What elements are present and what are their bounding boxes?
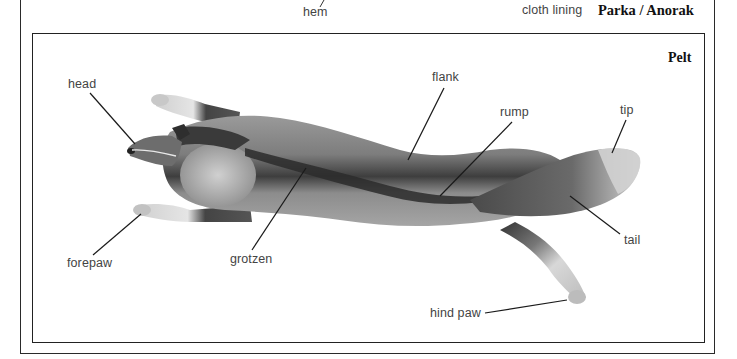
forepaw-leader-line: [93, 214, 141, 255]
tip-leader-line: [612, 120, 626, 153]
head-leader-line: [90, 93, 135, 144]
label-head: head: [68, 78, 96, 91]
fox-pelt-illustration: [0, 0, 737, 359]
label-flank: flank: [432, 71, 459, 84]
label-tail: tail: [624, 234, 640, 247]
label-forepaw: forepaw: [67, 257, 112, 270]
label-grotzen: grotzen: [230, 253, 272, 266]
label-hind-paw: hind paw: [430, 307, 481, 320]
hind-paw-leader-line: [485, 300, 567, 313]
hind-leg-lower: [500, 222, 586, 304]
flank-leader-line: [408, 88, 444, 160]
chest-ruff: [180, 143, 256, 207]
label-rump: rump: [500, 106, 529, 119]
label-tip: tip: [620, 104, 634, 117]
panel-title-pelt: Pelt: [668, 51, 691, 65]
